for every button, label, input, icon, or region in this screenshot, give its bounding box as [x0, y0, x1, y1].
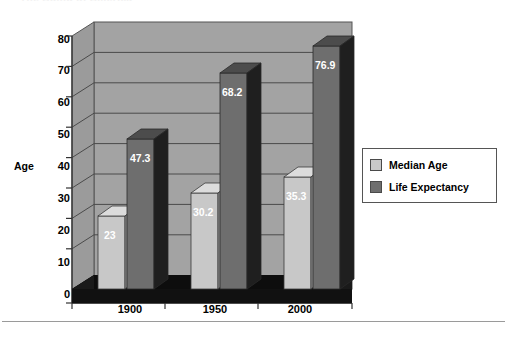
legend-swatch-life-expectancy-icon	[370, 181, 382, 193]
legend-label-life-expectancy: Life Expectancy	[389, 181, 469, 193]
bar-side-face	[340, 36, 354, 289]
bottom-divider	[2, 321, 505, 322]
bar-1950-life-expectancy: 68.2	[220, 63, 261, 289]
bar-1900-life-expectancy: 47.3	[127, 129, 168, 289]
bar-front-face	[220, 73, 247, 289]
bar-side-face	[247, 63, 261, 289]
bar-front-face	[98, 216, 125, 289]
bar-value-label: 47.3	[130, 152, 151, 164]
chart-figure: The Aging of America 80 70 60 50 40 30 2…	[0, 0, 507, 338]
legend-item-life-expectancy: Life Expectancy	[370, 179, 469, 195]
chart-legend: Median Age Life Expectancy	[362, 148, 497, 203]
y-axis-ticks	[66, 36, 72, 303]
bar-front-face	[313, 46, 340, 289]
bar-value-label: 23	[104, 229, 116, 241]
bar-side-face	[154, 129, 168, 289]
legend-swatch-median-age-icon	[370, 159, 382, 171]
bar-value-label: 76.9	[315, 59, 336, 71]
x-axis-ticks	[72, 303, 352, 309]
bar-value-label: 35.3	[286, 190, 307, 202]
bar-2000-life-expectancy: 76.9	[313, 36, 354, 289]
legend-label-median-age: Median Age	[389, 159, 448, 171]
legend-item-median-age: Median Age	[370, 157, 448, 173]
bar-value-label: 68.2	[222, 86, 243, 98]
bar-value-label: 30.2	[193, 206, 214, 218]
